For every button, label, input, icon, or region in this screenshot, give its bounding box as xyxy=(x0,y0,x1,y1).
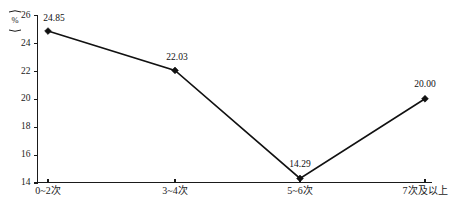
data-point-label: 20.00 xyxy=(414,79,436,89)
y-axis-ticks: 14161820222426 xyxy=(21,10,38,188)
x-axis-category-labels: 0~2次3~4次5~6次7次及以上 xyxy=(35,184,447,196)
data-point-markers xyxy=(45,28,429,182)
y-tick-label: 16 xyxy=(21,149,31,159)
x-category-label: 5~6次 xyxy=(287,184,312,196)
y-tick-label: 14 xyxy=(21,177,31,187)
y-tick-label: 22 xyxy=(21,66,31,76)
line-chart: % 14161820222426 24.8522.0314.2920.00 0~… xyxy=(0,0,458,201)
data-point-label: 22.03 xyxy=(166,52,188,62)
y-axis-unit-text: % xyxy=(11,15,18,25)
data-point-labels: 24.8522.0314.2920.00 xyxy=(43,13,436,169)
y-tick-label: 20 xyxy=(21,93,31,103)
y-tick-label: 24 xyxy=(21,38,31,48)
x-category-label: 0~2次 xyxy=(35,184,60,196)
y-tick-label: 26 xyxy=(21,10,31,20)
chart-screenshot: % 14161820222426 24.8522.0314.2920.00 0~… xyxy=(0,0,458,201)
y-tick-label: 18 xyxy=(21,121,31,131)
series-line-path xyxy=(48,31,425,178)
data-point-label: 24.85 xyxy=(43,13,65,23)
x-category-label: 7次及以上 xyxy=(403,184,448,196)
x-category-label: 3~4次 xyxy=(162,184,187,196)
y-axis-unit-label: % xyxy=(9,11,21,32)
data-point-marker xyxy=(45,28,52,35)
data-point-label: 14.29 xyxy=(289,159,311,169)
